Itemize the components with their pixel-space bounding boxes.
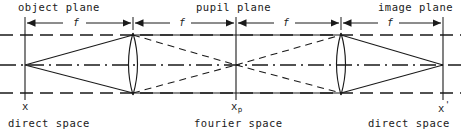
- label-coordinate-xp: xp: [231, 100, 243, 114]
- dimension-label-f-1: f: [73, 17, 80, 28]
- solid-rays: [25, 35, 443, 93]
- label-coordinate-x-prime: x': [438, 100, 451, 114]
- lens-2: [337, 33, 346, 95]
- dimension-label-f-2: f: [179, 17, 186, 28]
- label-coordinate-x: x: [22, 100, 29, 112]
- coordinate-x-prime-base: x: [438, 102, 445, 114]
- coordinate-xp-base: x: [231, 100, 238, 112]
- dimension-row: [25, 17, 443, 30]
- label-direct-space-image: direct space: [368, 117, 450, 129]
- dashed-rays: [133, 35, 341, 93]
- label-fourier-space: fourier space: [194, 117, 283, 129]
- label-object-plane: object plane: [18, 1, 100, 13]
- optical-system-figure: object plane pupil plane image plane f f…: [0, 0, 461, 133]
- coordinate-x-base: x: [22, 100, 29, 112]
- dimension-label-f-4: f: [387, 17, 394, 28]
- label-image-plane: image plane: [378, 1, 453, 13]
- coordinate-x-prime-mark: ': [445, 100, 451, 110]
- label-direct-space-object: direct space: [8, 117, 90, 129]
- dimension-label-f-3: f: [283, 17, 290, 28]
- coordinate-xp-subscript: p: [238, 105, 243, 114]
- lens-1: [129, 33, 138, 95]
- label-pupil-plane: pupil plane: [196, 1, 271, 13]
